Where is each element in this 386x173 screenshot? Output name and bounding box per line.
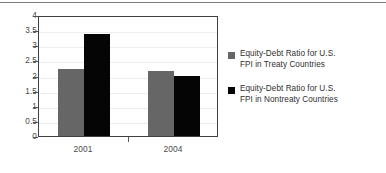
y-axis-label: 2 (7, 73, 37, 81)
y-axis-label: 1 (7, 103, 37, 111)
plot-area (38, 16, 218, 137)
x-axis-label-2001: 2001 (53, 145, 113, 153)
legend-label-treaty: Equity-Debt Ratio for U.S. FPI in Treaty… (240, 49, 380, 70)
legend-label-nontreaty: Equity-Debt Ratio for U.S. FPI in Nontre… (240, 84, 380, 105)
y-axis-label: 0 (7, 133, 37, 141)
plot-inner (39, 17, 217, 136)
y-axis-label: 3.5 (7, 27, 37, 35)
legend-item-nontreaty[interactable]: Equity-Debt Ratio for U.S. FPI in Nontre… (228, 84, 380, 105)
bar-2001-series2 (84, 34, 110, 136)
y-axis-label: 1.5 (7, 88, 37, 96)
y-axis-label: 4 (7, 12, 37, 20)
bar-2004-series2 (174, 76, 200, 137)
y-axis-label: 3 (7, 42, 37, 50)
legend-swatch-nontreaty (228, 87, 235, 94)
legend-swatch-treaty (228, 52, 235, 59)
y-axis-label: 2.5 (7, 57, 37, 65)
legend-item-treaty[interactable]: Equity-Debt Ratio for U.S. FPI in Treaty… (228, 49, 380, 70)
gridline (39, 32, 217, 33)
y-axis-label: 0.5 (7, 118, 37, 126)
gridline (39, 62, 217, 63)
bar-2001-series1 (58, 69, 84, 136)
figure-top-rule (0, 2, 386, 3)
gridline (39, 47, 217, 48)
bar-2004-series1 (148, 71, 174, 136)
x-axis-tick (128, 137, 129, 142)
chart-legend: Equity-Debt Ratio for U.S. FPI in Treaty… (228, 49, 380, 119)
x-axis-label-2004: 2004 (143, 145, 203, 153)
